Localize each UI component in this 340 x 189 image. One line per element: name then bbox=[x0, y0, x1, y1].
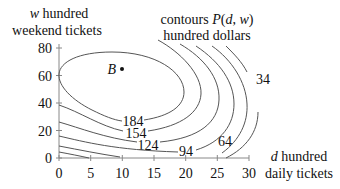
x-tick-label: 5 bbox=[87, 166, 94, 181]
y-tick-label: 60 bbox=[38, 69, 52, 84]
contour-184 bbox=[59, 52, 184, 121]
x-tick-label: 30 bbox=[242, 166, 256, 181]
y-tick-label: 0 bbox=[45, 151, 52, 166]
contour-label-34: 34 bbox=[256, 72, 270, 87]
point-b-label: B bbox=[107, 62, 116, 77]
y-axis-label-line1: w hundred bbox=[30, 6, 89, 21]
y-tick-label: 80 bbox=[38, 41, 52, 56]
x-tick-label: 10 bbox=[115, 166, 129, 181]
x-tick-label: 20 bbox=[179, 166, 193, 181]
contour-label-64: 64 bbox=[218, 134, 232, 149]
x-tick-label: 25 bbox=[210, 166, 224, 181]
x-tick-label: 15 bbox=[147, 166, 161, 181]
y-tick-label: 20 bbox=[38, 124, 52, 139]
contour-label-94: 94 bbox=[179, 144, 193, 159]
contour-34 bbox=[59, 152, 89, 158]
chart-title-line2: hundred dollars bbox=[163, 28, 250, 43]
contour-154 bbox=[59, 105, 123, 131]
x-axis-label-line1: d hundred bbox=[271, 149, 327, 164]
contour-chart: 80 60 40 20 0 0 5 10 15 20 25 30 w hundr… bbox=[0, 0, 340, 189]
chart-title-line1: contours P(d, w) bbox=[161, 12, 254, 28]
x-axis-label-line2: daily tickets bbox=[265, 166, 333, 181]
x-tick-label: 0 bbox=[56, 166, 63, 181]
y-tick-label: 40 bbox=[38, 96, 52, 111]
point-b-marker bbox=[120, 67, 124, 71]
contour-64 bbox=[59, 146, 120, 157]
contour-34 bbox=[226, 46, 247, 72]
y-axis-label-line2: weekend tickets bbox=[12, 23, 102, 38]
contour-124 bbox=[160, 44, 219, 142]
